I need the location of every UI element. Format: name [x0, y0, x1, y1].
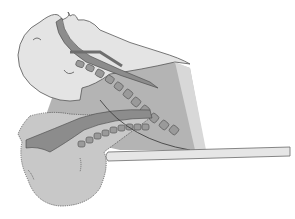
- medical-illustration: [0, 0, 295, 219]
- figure-stage: [0, 0, 295, 219]
